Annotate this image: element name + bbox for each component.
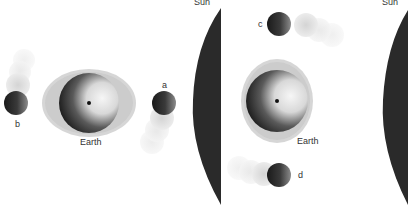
moon-label-c: c bbox=[258, 19, 263, 29]
moon-label-d: d bbox=[298, 170, 303, 180]
moon-c bbox=[267, 12, 291, 36]
moon-d bbox=[267, 163, 291, 187]
sun-shape bbox=[383, 10, 408, 205]
left-diagram bbox=[0, 0, 222, 208]
earth-center-dot bbox=[275, 99, 279, 103]
moon-b bbox=[4, 91, 28, 115]
moon-a bbox=[152, 91, 176, 115]
sun-shape bbox=[193, 8, 221, 205]
earth-label: Earth bbox=[80, 137, 102, 147]
sun-label: Sun bbox=[382, 0, 398, 7]
moon-label-b: b bbox=[15, 119, 20, 129]
sun-label: Sun bbox=[194, 0, 210, 7]
moon-label-a: a bbox=[162, 80, 167, 90]
right-diagram bbox=[222, 0, 413, 208]
right-panel-neap-tide: Sun Earth c d bbox=[222, 0, 413, 208]
earth-label: Earth bbox=[297, 136, 319, 146]
left-panel-spring-tide: Sun Earth b a bbox=[0, 0, 222, 208]
earth-center-dot bbox=[87, 101, 91, 105]
